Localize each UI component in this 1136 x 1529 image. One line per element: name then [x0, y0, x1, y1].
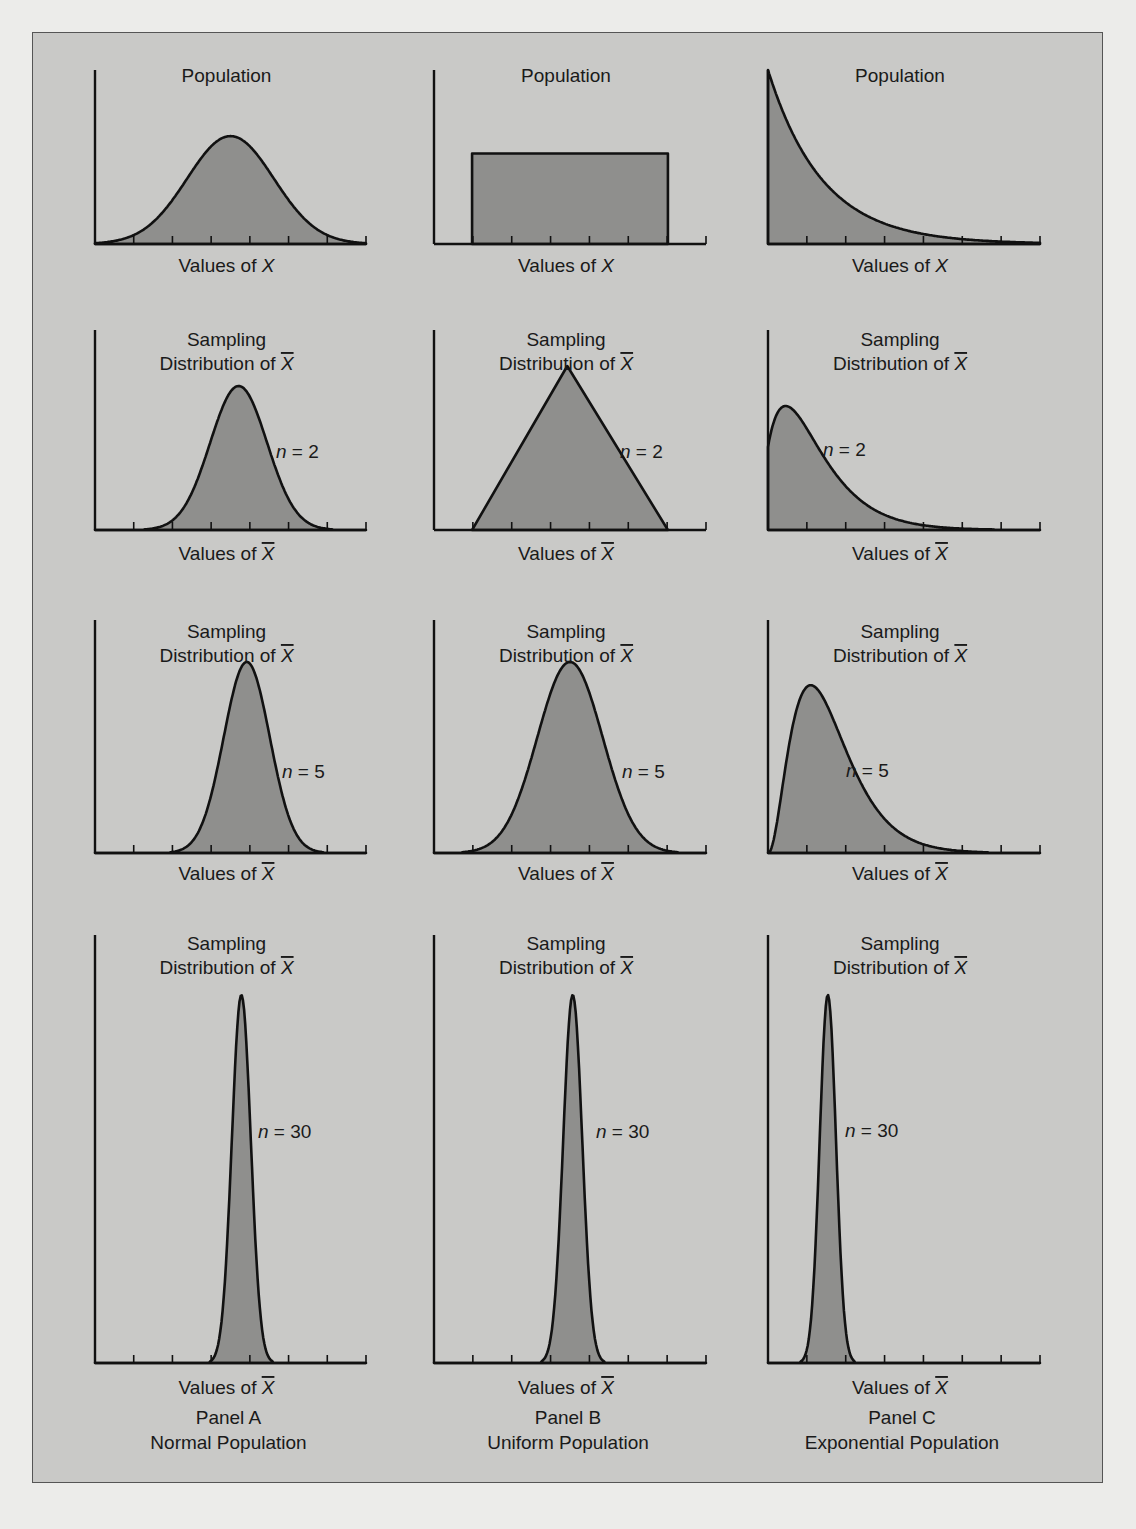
plot-title-line1: Sampling: [860, 933, 939, 954]
plot-a-row4: SamplingDistribution of XValues of Xn = …: [95, 933, 366, 1398]
plot-title: Population: [182, 65, 272, 86]
sample-size-label: n = 5: [282, 761, 325, 782]
x-axis-label: Values of X: [852, 863, 949, 884]
plot-title-line1: Sampling: [187, 329, 266, 350]
plot-title-line1: Sampling: [526, 933, 605, 954]
x-axis-label: Values of X: [179, 863, 276, 884]
plot-title-line2: Distribution of X: [833, 353, 968, 374]
plot-title-line2: Distribution of X: [159, 353, 294, 374]
plot-title-line1: Sampling: [526, 329, 605, 350]
plot-b-row2: SamplingDistribution of XValues of Xn = …: [434, 329, 706, 564]
plot-title-line2: Distribution of X: [499, 957, 634, 978]
x-axis-label: Values of X: [852, 255, 949, 276]
plot-title-line1: Sampling: [860, 329, 939, 350]
sample-size-label: n = 2: [276, 441, 319, 462]
plot-title-line2: Distribution of X: [159, 645, 294, 666]
x-axis-label: Values of X: [518, 1377, 615, 1398]
x-axis-label: Values of X: [518, 255, 615, 276]
distribution-curve: [768, 995, 1040, 1363]
plot-title-line1: Sampling: [860, 621, 939, 642]
sample-size-label: n = 30: [258, 1121, 311, 1142]
plot-b-row1: PopulationValues of X: [434, 65, 706, 276]
plot-c-row4: SamplingDistribution of XValues of Xn = …: [768, 933, 1040, 1398]
distribution-curve: [95, 136, 366, 244]
plot-title-line2: Distribution of X: [833, 645, 968, 666]
distribution-curve: [95, 386, 366, 530]
sampling-distribution-grid: PopulationValues of XPopulationValues of…: [0, 0, 1136, 1529]
distribution-curve: [472, 154, 668, 244]
distribution-curve: [95, 995, 366, 1363]
sample-size-label: n = 5: [622, 761, 665, 782]
distribution-curve: [768, 406, 1040, 530]
panel-caption: Panel B: [535, 1407, 602, 1428]
plot-title-line1: Sampling: [187, 621, 266, 642]
plot-c-row3: SamplingDistribution of XValues of Xn = …: [768, 620, 1040, 884]
x-axis-label: Values of X: [852, 543, 949, 564]
panel-caption: Panel C: [868, 1407, 936, 1428]
distribution-curve: [768, 685, 1040, 853]
plot-b-row3: SamplingDistribution of XValues of Xn = …: [434, 620, 706, 884]
plot-title-line2: Distribution of X: [499, 353, 634, 374]
distribution-curve: [95, 662, 366, 853]
sample-size-label: n = 30: [596, 1121, 649, 1142]
panel-population-caption: Exponential Population: [805, 1432, 999, 1453]
sample-size-label: n = 30: [845, 1120, 898, 1141]
panel-population-caption: Normal Population: [150, 1432, 306, 1453]
plot-c-row1: PopulationValues of X: [768, 65, 1040, 276]
plot-title-line2: Distribution of X: [499, 645, 634, 666]
distribution-curve: [434, 995, 706, 1363]
distribution-curve: [434, 662, 706, 853]
plot-title: Population: [855, 65, 945, 86]
sample-size-label: n = 2: [620, 441, 663, 462]
x-axis-label: Values of X: [179, 1377, 276, 1398]
x-axis-label: Values of X: [518, 543, 615, 564]
plot-b-row4: SamplingDistribution of XValues of Xn = …: [434, 933, 706, 1398]
x-axis-label: Values of X: [179, 255, 276, 276]
plot-a-row2: SamplingDistribution of XValues of Xn = …: [95, 329, 366, 564]
plot-title: Population: [521, 65, 611, 86]
x-axis-label: Values of X: [518, 863, 615, 884]
sample-size-label: n = 2: [823, 439, 866, 460]
plot-a-row1: PopulationValues of X: [95, 65, 366, 276]
plot-a-row3: SamplingDistribution of XValues of Xn = …: [95, 620, 366, 884]
sample-size-label: n = 5: [846, 760, 889, 781]
plot-title-line2: Distribution of X: [159, 957, 294, 978]
plot-title-line1: Sampling: [187, 933, 266, 954]
panel-caption: Panel A: [196, 1407, 262, 1428]
plot-c-row2: SamplingDistribution of XValues of Xn = …: [768, 329, 1040, 564]
distribution-curve: [768, 70, 1040, 244]
plot-title-line1: Sampling: [526, 621, 605, 642]
plot-title-line2: Distribution of X: [833, 957, 968, 978]
x-axis-label: Values of X: [179, 543, 276, 564]
x-axis-label: Values of X: [852, 1377, 949, 1398]
panel-population-caption: Uniform Population: [487, 1432, 649, 1453]
